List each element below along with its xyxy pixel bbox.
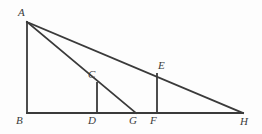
point-label-g: G (129, 115, 137, 126)
point-label-a: A (18, 7, 25, 18)
point-label-d: D (88, 115, 96, 126)
segment-layer (27, 22, 243, 113)
point-label-b: B (16, 115, 23, 126)
point-label-h: H (240, 116, 248, 127)
point-label-e: E (158, 60, 165, 71)
segment-ag (27, 22, 136, 113)
point-label-f: F (150, 115, 157, 126)
segment-ah (27, 22, 243, 113)
point-label-c: C (88, 69, 95, 80)
geometry-figure: ABCDEFGH (0, 0, 262, 134)
